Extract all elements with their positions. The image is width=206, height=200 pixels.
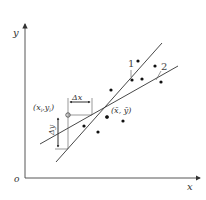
mean-point-label: (x̄, ȳ) <box>111 106 131 115</box>
y-axis-label: y <box>12 27 19 38</box>
delta-y-label: Δy <box>47 124 56 136</box>
delta-x-label: Δx <box>71 93 83 102</box>
sample-point-label: (xi,yi) <box>33 103 54 113</box>
regression-line-1 <box>56 43 162 162</box>
mean-point <box>105 115 109 119</box>
data-points <box>82 59 162 133</box>
line-1-label: 1 <box>128 58 134 69</box>
origin-label: o <box>14 174 20 184</box>
regression-diagram: y x o 1 2 (x̄, ȳ) (xi,yi) Δx Δy <box>0 0 206 200</box>
line-2-leader <box>156 71 161 80</box>
x-axis-label: x <box>187 181 193 192</box>
line-2-label: 2 <box>161 61 167 72</box>
